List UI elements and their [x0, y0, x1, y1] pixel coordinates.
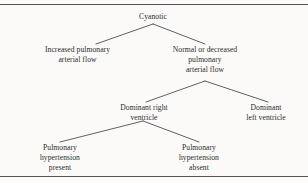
node-cyanotic: Cyanotic — [113, 12, 193, 22]
node-increased-flow-line-2: arterial flow — [20, 55, 135, 65]
node-dominant-right-line-1: Dominant right — [100, 103, 188, 113]
node-pht-absent-line-2: hypertension — [155, 153, 243, 163]
node-pht-present-line-3: present — [16, 163, 104, 173]
node-increased-pulmonary-arterial-flow: Increased pulmonary arterial flow — [20, 45, 135, 65]
node-dominant-left-line-1: Dominant — [228, 103, 304, 113]
node-normal-decreased-flow-line-2: pulmonary — [148, 55, 262, 65]
flowchart-figure: Cyanotic Increased pulmonary arterial fl… — [0, 0, 308, 183]
node-dominant-left-ventricle: Dominant left ventricle — [228, 103, 304, 123]
edge-root-to-normal-decreased-flow — [153, 24, 205, 44]
edge-normal-to-dominant-left — [205, 81, 268, 102]
node-increased-flow-line-1: Increased pulmonary — [20, 45, 135, 55]
node-dominant-left-line-2: left ventricle — [228, 113, 304, 123]
node-normal-or-decreased-pulmonary-arterial-flow: Normal or decreased pulmonary arterial f… — [148, 45, 262, 75]
edge-dominant-right-to-pht-present — [60, 121, 143, 142]
node-dominant-right-ventricle: Dominant right ventricle — [100, 103, 188, 123]
edge-normal-to-dominant-right — [146, 81, 205, 102]
node-pht-present-line-2: hypertension — [16, 153, 104, 163]
node-pulmonary-hypertension-absent: Pulmonary hypertension absent — [155, 143, 243, 173]
node-pht-absent-line-1: Pulmonary — [155, 143, 243, 153]
node-pulmonary-hypertension-present: Pulmonary hypertension present — [16, 143, 104, 173]
node-pht-present-line-1: Pulmonary — [16, 143, 104, 153]
node-normal-decreased-flow-line-1: Normal or decreased — [148, 45, 262, 55]
node-cyanotic-line-1: Cyanotic — [113, 12, 193, 22]
node-pht-absent-line-3: absent — [155, 163, 243, 173]
edge-root-to-increased-flow — [96, 24, 153, 44]
edge-dominant-right-to-pht-absent — [143, 121, 199, 142]
node-normal-decreased-flow-line-3: arterial flow — [148, 65, 262, 75]
node-dominant-right-line-2: ventricle — [100, 113, 188, 123]
